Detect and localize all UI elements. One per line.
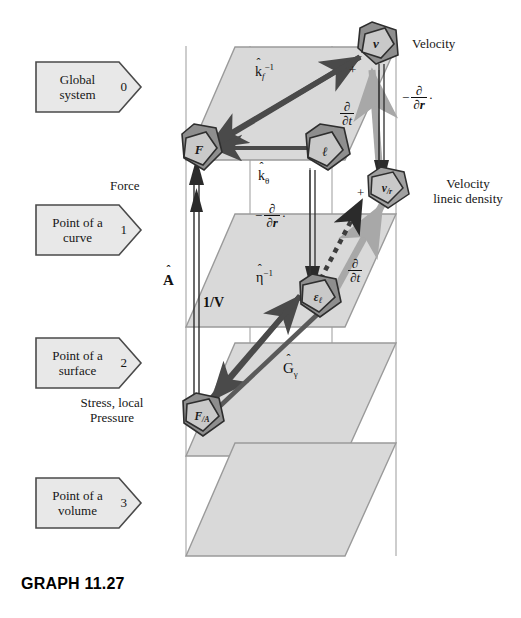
annotation-line2: Pressure [90,410,134,425]
svg-text:F: F [194,142,204,157]
flag-line1: Global [60,72,95,87]
annotation-line1: Stress, local [81,395,144,410]
operator-prefix-minus: − [402,90,409,106]
sign-plus-velocity: + [349,62,356,78]
operator-superscript: −1 [265,62,275,72]
flag-number: 3 [121,495,128,511]
svg-text:ℓ: ℓ [322,144,328,159]
operator-subscript: θ [265,176,269,186]
fraction-numerator: ∂ [350,257,360,270]
operator-subscript: γ [294,369,298,379]
flag-label-point-of-a-surface[interactable]: Point of a surface 2 [36,338,141,388]
flag-label-point-of-a-curve[interactable]: Point of a curve 1 [36,205,141,255]
operator-d-dt-bottom: ∂ ∂t [348,257,362,285]
flag-label-global-system[interactable]: Global system 0 [36,62,141,112]
flag-line2: curve [63,230,92,245]
sign-plus-velocity-lineic: + [357,185,364,201]
diagram-root: v F ℓ v/r εℓ F/A [0,0,521,618]
flag-line2: volume [58,503,97,518]
flag-line1: Point of a [52,215,103,230]
operator-suffix-dot: · [282,208,286,224]
operator-prefix-minus: − [255,208,262,224]
arrow-FA-to-F [189,158,204,404]
annotation-force: Force [110,178,140,193]
operator-superscript: −1 [263,268,273,278]
flag-line1: Point of a [52,348,103,363]
fraction-denominator: ∂t [348,270,362,284]
svg-text:v: v [373,36,379,51]
annotation-line1: Velocity [446,176,489,191]
flag-label-point-of-a-volume[interactable]: Point of a volume 3 [36,478,141,528]
flag-number: 0 [121,79,128,95]
node-velocity-lineic-density[interactable]: v/r [368,167,409,208]
hat-glyph: ˆ [166,263,170,278]
annotation-line2: lineic density [433,191,503,206]
hat-glyph: ˆ [258,262,262,277]
operator-eta-inverse: ˆη−1 [256,268,273,286]
fraction-numerator: ∂ [414,84,424,97]
operator-k-theta: ˆkθ [258,168,269,186]
hat-glyph: ˆ [257,56,261,71]
node-force[interactable]: F [182,124,222,170]
operator-inverse-volume: 1/V [203,295,224,311]
operator-A-hat: ˆA [163,272,174,289]
flag-number: 2 [121,355,128,371]
operator-minus-d-dr-mid: − ∂ ∂r · [255,202,286,230]
operator-suffix-dot: · [429,90,433,106]
plane-point-of-volume [186,443,396,556]
flag-line2: surface [59,363,97,378]
operator-subscript: f [262,71,265,81]
hat-glyph: ˆ [286,352,290,367]
annotation-stress-local-pressure: Stress, local Pressure [52,395,172,425]
fraction-numerator: ∂ [267,202,277,215]
annotation-velocity: Velocity [412,36,455,51]
fraction-denominator: ∂t [340,113,354,127]
fraction-denominator: ∂r [264,215,279,229]
flag-number: 1 [121,222,128,238]
annotation-velocity-lineic-density: Velocity lineic density [420,176,516,206]
operator-k-f-inverse: ˆkf−1 [255,62,274,81]
operator-d-dt-top: ∂ ∂t [340,100,354,128]
operator-minus-d-dr-right: − ∂ ∂r · [402,84,433,112]
figure-caption: GRAPH 11.27 [21,575,125,593]
fraction-denominator: ∂r [411,97,426,111]
operator-G-gamma: ˆGγ [283,360,298,379]
flag-line1: Point of a [52,488,103,503]
hat-glyph: ˆ [260,160,264,175]
flag-line2: system [59,87,95,102]
node-length[interactable]: ℓ [306,124,350,170]
fraction-numerator: ∂ [342,100,352,113]
